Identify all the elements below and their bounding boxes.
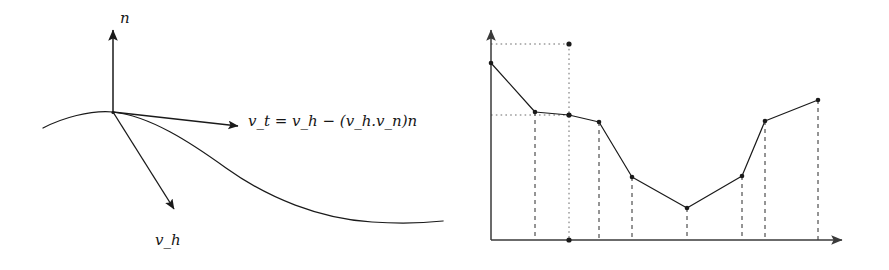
figure-root: n v_t = v_h − (v_h.v_n)n v_h z = f(x) xyxy=(0,0,889,270)
dashed-drop-lines xyxy=(535,100,818,240)
data-point-marker xyxy=(597,120,602,125)
data-point-marker xyxy=(685,206,690,211)
sampled-proxy-point xyxy=(566,41,571,46)
surface-proxy-point xyxy=(566,112,571,117)
panel-friction-vectors: n v_t = v_h − (v_h.v_n)n v_h xyxy=(0,0,445,270)
dotted-guide-lines xyxy=(491,44,572,240)
normal-vector-label: n xyxy=(120,10,130,27)
tangential-vector-arrow xyxy=(113,112,238,126)
data-point-marker xyxy=(763,119,768,124)
contact-point xyxy=(111,111,114,114)
data-point-marker xyxy=(816,98,821,103)
x-axis-xp-tick xyxy=(566,237,571,242)
data-point-marker xyxy=(533,110,538,115)
panel-proxy-height-field: z = f(x) f(xp) (xp, ~zp) (xp, f(xp)) pro… xyxy=(445,0,889,270)
height-field-polyline xyxy=(491,63,818,208)
haptic-velocity-label: v_h xyxy=(155,232,181,249)
data-point-markers xyxy=(489,61,821,211)
data-point-marker xyxy=(489,61,494,66)
tangential-velocity-equation-label: v_t = v_h − (v_h.v_n)n xyxy=(248,113,417,130)
data-point-marker xyxy=(630,175,635,180)
haptic-velocity-arrow xyxy=(113,112,174,209)
data-point-marker xyxy=(740,174,745,179)
